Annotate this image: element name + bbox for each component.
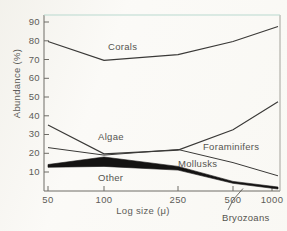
series-label-mollusks: Mollusks: [178, 158, 217, 169]
series-label-algae: Algae: [98, 131, 124, 142]
series-label-foraminifers: Foraminifers: [203, 141, 259, 152]
y-tick-label-10: 10: [18, 166, 40, 177]
series-label-corals: Corals: [108, 41, 137, 52]
y-tick-label-90: 90: [18, 16, 40, 27]
y-tick-label-30: 30: [18, 128, 40, 139]
series-line-corals: [48, 27, 278, 61]
x-tick-label-500: 500: [213, 194, 253, 205]
y-tick-label-20: 20: [18, 147, 40, 158]
y-axis-ticks: [44, 22, 49, 172]
y-axis-title: Abundance (%): [11, 41, 22, 127]
x-tick-label-100: 100: [84, 194, 124, 205]
series-label-bryozoans: Bryozoans: [222, 212, 270, 223]
x-axis-ticks: [48, 186, 272, 191]
chart-figure: 10 20 30 40 50 60 70 80 90 50 100 250 50…: [0, 0, 287, 231]
x-tick-label-250: 250: [158, 194, 198, 205]
x-axis-title: Log size (μ): [73, 205, 213, 216]
series-area-bryozoans: [48, 157, 278, 189]
x-tick-label-50: 50: [28, 194, 68, 205]
x-tick-label-1000: 1000: [252, 194, 287, 205]
series-label-other: Other: [98, 172, 123, 183]
